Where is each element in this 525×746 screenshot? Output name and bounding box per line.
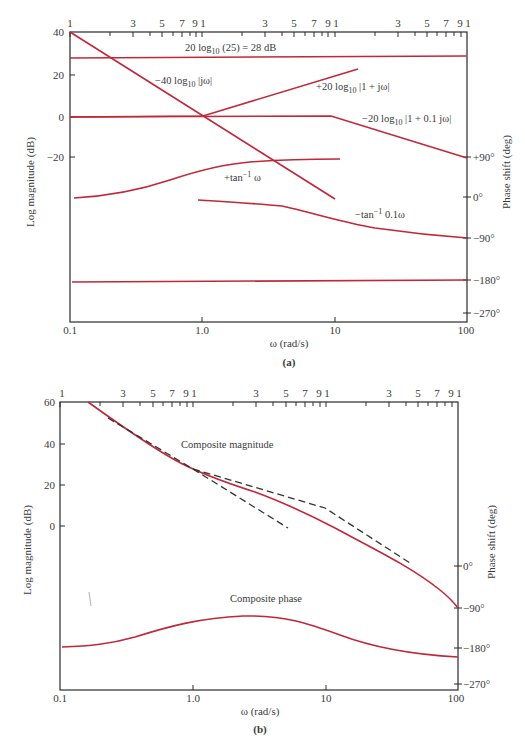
svg-text:1: 1 <box>191 387 197 399</box>
svg-text:−20: −20 <box>47 151 65 163</box>
panel-a-ylabel-left: Log magnitude (dB) <box>24 137 37 227</box>
svg-text:−90°: −90° <box>463 602 485 614</box>
svg-text:3: 3 <box>120 387 126 399</box>
panel-b-caption: (b) <box>253 723 267 736</box>
svg-text:5: 5 <box>291 17 297 29</box>
svg-text:9: 9 <box>316 387 322 399</box>
svg-text:7: 7 <box>169 387 175 399</box>
svg-text:1.0: 1.0 <box>195 324 209 336</box>
svg-text:5: 5 <box>150 387 156 399</box>
svg-text:+90°: +90° <box>473 151 495 163</box>
svg-text:7: 7 <box>179 17 185 29</box>
svg-text:5: 5 <box>424 17 430 29</box>
panel-a-xlabel: ω (rad/s) <box>270 337 309 350</box>
ann-minus-atan: −tan−1 0.1ω <box>355 207 405 220</box>
panel-a-frame <box>70 32 467 322</box>
svg-text:9: 9 <box>183 387 189 399</box>
svg-text:7: 7 <box>443 17 449 29</box>
svg-text:40: 40 <box>53 26 65 38</box>
curve-28db <box>70 56 467 58</box>
panel-b: 1 3 5 7 9 1 3 5 7 9 1 3 5 7 9 1 60 40 20… <box>21 387 498 736</box>
svg-text:9: 9 <box>192 17 198 29</box>
svg-text:0.1: 0.1 <box>53 692 67 704</box>
svg-text:0°: 0° <box>473 191 483 203</box>
svg-text:1: 1 <box>324 387 330 399</box>
asymptote-piecewise <box>193 469 410 563</box>
svg-text:9: 9 <box>457 17 463 29</box>
ann-28db: 20 log10 (25) = 28 dB <box>185 42 276 56</box>
panel-b-left-ticks: 60 40 20 0 <box>44 396 65 532</box>
svg-text:−270°: −270° <box>473 307 500 319</box>
curve-composite-magnitude <box>88 402 458 608</box>
svg-text:3: 3 <box>130 17 136 29</box>
svg-text:7: 7 <box>434 387 440 399</box>
panel-a-top-ticks <box>70 32 461 37</box>
curve-minus-atan-01w <box>198 200 467 238</box>
curve-plus-atan-w <box>74 159 340 198</box>
svg-text:100: 100 <box>458 324 475 336</box>
panel-b-ylabel-right: Phase shift (deg) <box>485 505 498 579</box>
panel-b-bottom-ticks: 0.1 1.0 10 100 <box>53 685 465 704</box>
panel-b-ylabel-left: Log magnitude (dB) <box>21 505 34 595</box>
panel-a-caption: (a) <box>283 356 296 369</box>
svg-text:0: 0 <box>59 111 65 123</box>
svg-text:3: 3 <box>253 387 259 399</box>
svg-text:3: 3 <box>395 17 401 29</box>
curve-composite-phase <box>62 616 458 657</box>
svg-text:5: 5 <box>415 387 421 399</box>
svg-text:−180°: −180° <box>473 274 500 286</box>
svg-text:1: 1 <box>59 387 65 399</box>
panel-a: 1 3 5 7 9 1 3 5 7 9 1 3 5 7 9 1 40 20 0 … <box>24 17 513 369</box>
svg-text:3: 3 <box>386 387 392 399</box>
panel-b-xlabel: ω (rad/s) <box>241 705 280 718</box>
svg-text:−90°: −90° <box>473 232 495 244</box>
svg-text:20: 20 <box>53 69 65 81</box>
ann-plus20: +20 log10 |1 + jω| <box>316 81 390 95</box>
panel-b-top-tick-labels: 1 3 5 7 9 1 3 5 7 9 1 3 5 7 9 1 <box>59 387 462 399</box>
ann-composite-magnitude: Composite magnitude <box>181 439 274 450</box>
curve-plus20-log-1-jw <box>70 69 358 117</box>
curve-minus180 <box>72 280 467 282</box>
svg-text:1.0: 1.0 <box>186 692 200 704</box>
svg-text:1: 1 <box>333 17 339 29</box>
svg-text:20: 20 <box>44 479 56 491</box>
svg-text:5: 5 <box>159 17 165 29</box>
svg-text:9: 9 <box>448 387 454 399</box>
panel-b-top-ticks <box>60 402 452 407</box>
svg-text:10: 10 <box>330 324 342 336</box>
svg-text:0°: 0° <box>463 560 473 572</box>
panel-a-right-ticks: +90° 0° −90° −180° −270° <box>463 151 500 319</box>
svg-text:10: 10 <box>321 692 333 704</box>
svg-text:7: 7 <box>302 387 308 399</box>
svg-text:3: 3 <box>262 17 268 29</box>
bode-figure: 1 3 5 7 9 1 3 5 7 9 1 3 5 7 9 1 40 20 0 … <box>0 0 525 746</box>
svg-text:100: 100 <box>448 692 465 704</box>
stray-mark <box>89 592 91 606</box>
svg-text:9: 9 <box>325 17 331 29</box>
svg-text:1: 1 <box>456 387 462 399</box>
svg-text:60: 60 <box>44 396 56 408</box>
svg-text:1: 1 <box>200 17 206 29</box>
svg-text:−180°: −180° <box>463 642 490 654</box>
svg-text:0: 0 <box>50 520 56 532</box>
svg-text:1: 1 <box>465 17 471 29</box>
panel-a-ylabel-right: Phase shift (deg) <box>500 135 513 209</box>
svg-text:1: 1 <box>67 17 73 29</box>
ann-composite-phase: Composite phase <box>230 593 302 604</box>
ann-plus-atan: +tan−1 ω <box>224 170 261 183</box>
ann-minus40: −40 log10 |jω| <box>155 75 212 89</box>
svg-text:40: 40 <box>44 438 56 450</box>
ann-minus20: −20 log10 |1 + 0.1 jω| <box>362 113 451 127</box>
svg-text:7: 7 <box>311 17 317 29</box>
panel-a-left-ticks: 40 20 0 −20 <box>47 26 75 163</box>
panel-a-top-tick-labels: 1 3 5 7 9 1 3 5 7 9 1 3 5 7 9 1 <box>67 17 471 29</box>
panel-a-bottom-ticks: 0.1 1.0 10 100 <box>63 317 475 336</box>
svg-text:5: 5 <box>283 387 289 399</box>
svg-text:0.1: 0.1 <box>63 324 77 336</box>
svg-text:−270°: −270° <box>463 678 490 690</box>
